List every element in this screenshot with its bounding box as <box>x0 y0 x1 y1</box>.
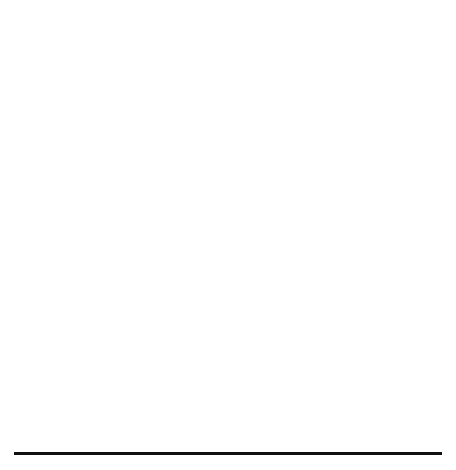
bottom-chart-svg <box>0 232 456 437</box>
chart-fitness-evaluations <box>0 232 456 437</box>
figure-container <box>0 0 456 470</box>
top-chart-svg <box>0 0 456 232</box>
footer-rule <box>14 452 442 455</box>
chart-objective-throughput <box>0 0 456 232</box>
